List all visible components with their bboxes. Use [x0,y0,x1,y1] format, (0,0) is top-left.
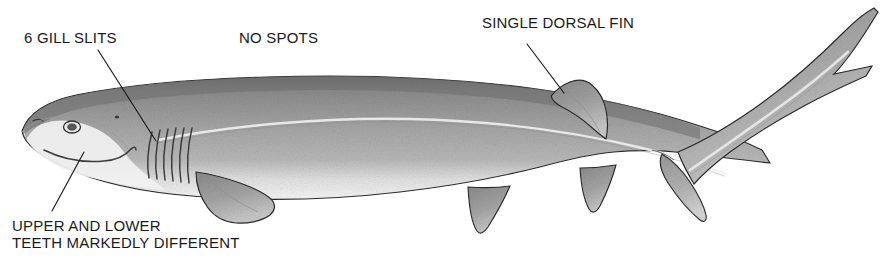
callout-label-teeth-line2: TEETH MARKEDLY DIFFERENT [12,234,240,251]
anal-fin [580,165,616,212]
eye-pupil [68,124,76,130]
callout-label-gill-slits: 6 GILL SLITS [24,29,117,46]
callout-label-teeth: UPPER AND LOWERTEETH MARKEDLY DIFFERENT [12,217,240,251]
pelvic-fin-shape [468,186,510,233]
callout-label-dorsal-fin: SINGLE DORSAL FIN [482,14,634,31]
pelvic-fin [468,186,510,233]
caudal-fin [652,8,878,221]
shark-body [22,76,770,204]
illustration-page: 6 GILL SLITS NO SPOTS SINGLE DORSAL FIN … [0,0,890,266]
dorsal-fin-leader [527,44,564,93]
spiracle [115,115,119,118]
callout-label-teeth-line1: UPPER AND LOWER [12,217,161,234]
callout-label-no-spots: NO SPOTS [239,29,318,46]
anal-fin-shape [580,165,616,212]
